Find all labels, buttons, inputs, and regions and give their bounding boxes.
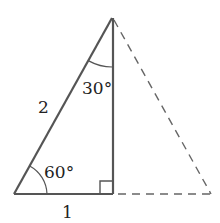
label-60-degrees: 60°: [44, 162, 74, 182]
dashed-right-side: [114, 20, 211, 194]
label-hypotenuse-2: 2: [38, 97, 49, 117]
label-base-1: 1: [62, 202, 73, 222]
angle-arc-30: [89, 61, 113, 67]
right-angle-marker: [100, 181, 113, 194]
triangle-diagram: 30° 2 60° 1: [0, 0, 220, 223]
label-30-degrees: 30°: [82, 78, 112, 98]
